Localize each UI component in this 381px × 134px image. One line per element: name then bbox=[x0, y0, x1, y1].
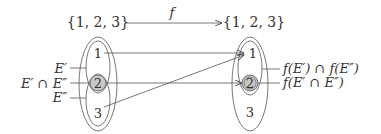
codomain-set-label: {1, 2, 3} bbox=[223, 14, 285, 30]
domain-set-label: {1, 2, 3} bbox=[67, 14, 129, 30]
domain-diagram: 1 2 3 E′ E′ ∩ E″ E″ bbox=[20, 37, 117, 131]
image-intersection-label: f(E′) ∩ f(E″) bbox=[282, 61, 359, 76]
map-label-f: f bbox=[169, 5, 177, 20]
set-mapping-diagram: {1, 2, 3} {1, 2, 3} f 1 2 3 E′ E′ ∩ E″ E… bbox=[0, 0, 381, 134]
domain-element-2: 2 bbox=[94, 76, 102, 91]
codomain-element-3: 3 bbox=[246, 105, 254, 120]
e-prime-label: E′ bbox=[54, 61, 67, 76]
e-double-prime-label: E″ bbox=[52, 90, 67, 105]
mapping-3-to-1 bbox=[104, 55, 244, 107]
codomain-element-2: 2 bbox=[246, 76, 254, 91]
intersection-image-label: f(E′ ∩ E″) bbox=[282, 75, 344, 90]
domain-element-1: 1 bbox=[94, 46, 102, 61]
codomain-element-1: 1 bbox=[249, 46, 257, 61]
domain-element-3: 3 bbox=[94, 106, 102, 121]
intersection-label: E′ ∩ E″ bbox=[20, 76, 67, 91]
codomain-diagram: 1 2 3 f(E′) ∩ f(E″) f(E′ ∩ E″) bbox=[232, 37, 359, 131]
